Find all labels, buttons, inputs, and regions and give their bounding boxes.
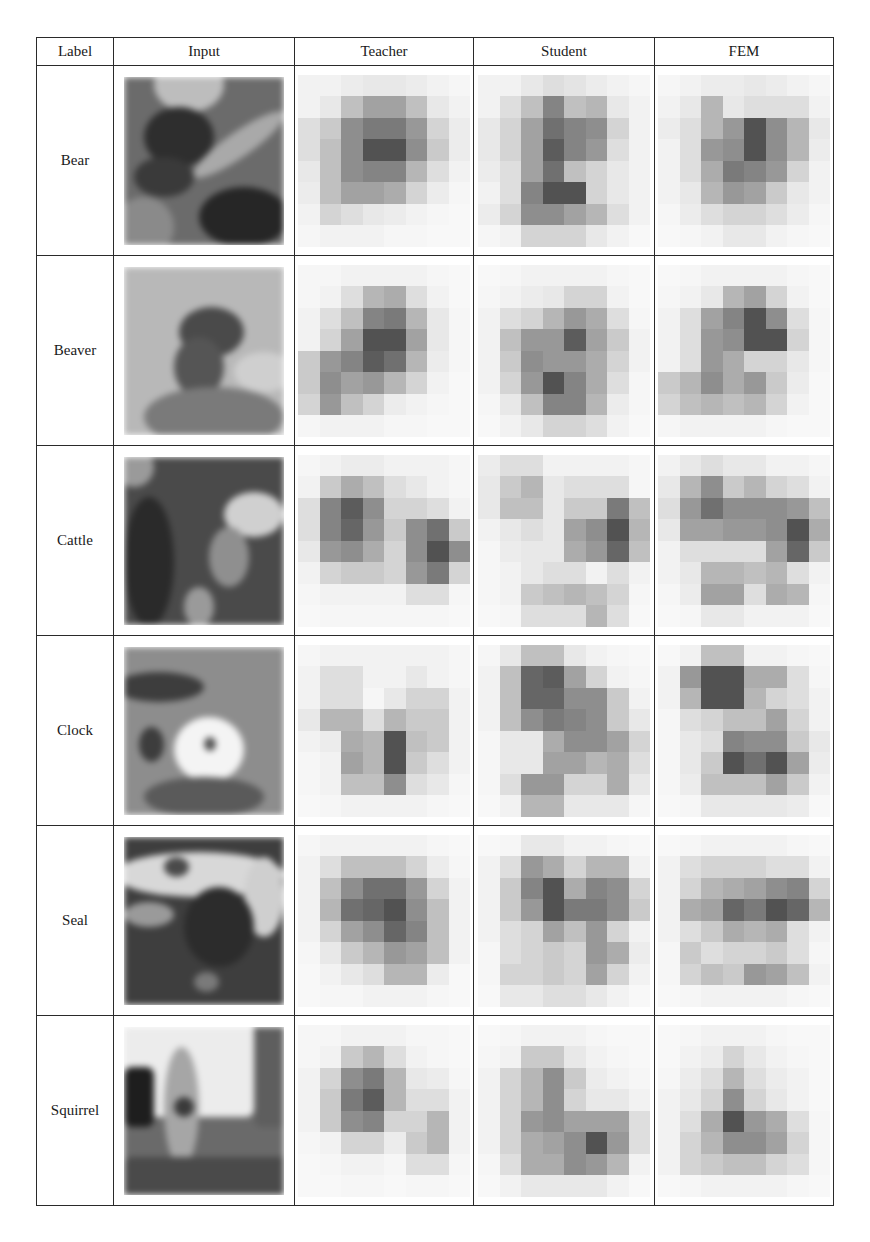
heatmap-square [341,265,363,287]
heatmap-square [320,835,342,857]
heatmap-square [809,1175,831,1197]
input-cell [114,256,295,446]
heatmap-square [787,541,809,563]
heatmap-square [298,308,320,330]
image-region [209,527,249,587]
heatmap-square [658,204,680,226]
heatmap-square [521,1046,543,1068]
heatmap-square [500,351,522,373]
heatmap-square [500,415,522,437]
heatmap-square [543,985,565,1007]
heatmap-square [521,1154,543,1176]
heatmap-square [701,204,723,226]
heatmap-square [701,265,723,287]
heatmap-square [809,1089,831,1111]
heatmap-square [680,1175,702,1197]
heatmap-square [564,878,586,900]
heatmap-square [809,286,831,308]
heatmap-square [766,265,788,287]
heatmap-square [406,182,428,204]
table-row: Bear [37,66,834,256]
heatmap-square [449,455,471,477]
heatmap-square [680,795,702,817]
heatmap-square [363,709,385,731]
heatmap-square [744,942,766,964]
heatmap-square [607,1025,629,1047]
heatmap-square [363,286,385,308]
heatmap-square [701,476,723,498]
heatmap-square [744,645,766,667]
heatmap-square [701,1175,723,1197]
heatmap-square [384,688,406,710]
heatmap-square [809,415,831,437]
heatmap-cell-teacher [295,826,474,1016]
heatmap-square [384,878,406,900]
heatmap-square [586,1175,608,1197]
heatmap-square [701,1132,723,1154]
heatmap-square [766,351,788,373]
heatmap-square [406,1154,428,1176]
heatmap-square [586,856,608,878]
heatmap-square [320,455,342,477]
heatmap-square [427,308,449,330]
heatmap-square [658,562,680,584]
heatmap-square [564,1175,586,1197]
heatmap-square [449,182,471,204]
heatmap-square [787,752,809,774]
heatmap-square [680,752,702,774]
heatmap-square [723,835,745,857]
heatmap-square [766,985,788,1007]
heatmap-teacher [298,455,470,627]
heatmap-square [363,584,385,606]
heatmap-square [543,1111,565,1133]
heatmap-square [723,415,745,437]
heatmap-square [543,921,565,943]
heatmap-square [744,1175,766,1197]
heatmap-square [449,688,471,710]
heatmap-square [449,204,471,226]
heatmap-square [766,964,788,986]
heatmap-square [298,415,320,437]
row-label: Cattle [37,446,114,636]
heatmap-square [543,415,565,437]
heatmap-square [787,1089,809,1111]
heatmap-square [320,795,342,817]
heatmap-square [384,856,406,878]
heatmap-square [521,329,543,351]
heatmap-square [766,308,788,330]
heatmap-square [384,731,406,753]
heatmap-square [658,878,680,900]
heatmap-teacher [298,645,470,817]
heatmap-square [320,964,342,986]
heatmap-square [478,498,500,520]
heatmap-square [658,985,680,1007]
heatmap-square [478,688,500,710]
heatmap-square [586,351,608,373]
heatmap-square [701,709,723,731]
heatmap-square [427,899,449,921]
heatmap-square [586,161,608,183]
heatmap-square [341,835,363,857]
heatmap-square [658,605,680,627]
heatmap-square [478,455,500,477]
heatmap-square [629,329,651,351]
heatmap-square [701,1111,723,1133]
heatmap-square [658,265,680,287]
heatmap-square [701,498,723,520]
heatmap-square [363,921,385,943]
heatmap-square [766,584,788,606]
heatmap-square [787,1046,809,1068]
heatmap-square [629,1089,651,1111]
heatmap-square [629,372,651,394]
heatmap-square [723,75,745,97]
heatmap-square [586,878,608,900]
heatmap-square [298,856,320,878]
heatmap-square [723,645,745,667]
heatmap-square [427,182,449,204]
heatmap-square [701,645,723,667]
heatmap-square [629,286,651,308]
heatmap-student [478,1025,650,1197]
heatmap-square [500,225,522,247]
heatmap-square [586,308,608,330]
heatmap-square [629,75,651,97]
